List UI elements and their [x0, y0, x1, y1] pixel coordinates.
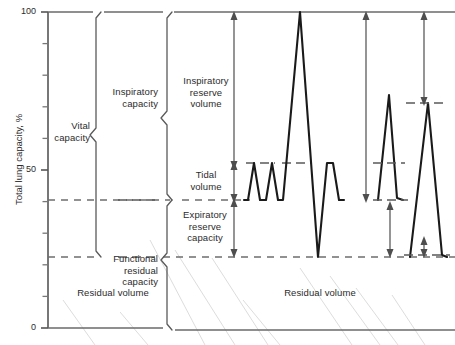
expiratory-reserve-measure-arrow: [387, 201, 394, 258]
vital-capacity-measure-arrow: [421, 11, 428, 106]
guide-lines: [48, 200, 455, 257]
lung-volumes-figure: 100 50 0 Total lung capacity, % Vital ca…: [0, 0, 455, 345]
label-residual-volume-left: Residual volume: [58, 287, 168, 299]
brace-connector-dashes: [118, 200, 160, 257]
inspiratory-capacity-brace: [161, 12, 172, 200]
label-residual-volume-right: Residual volume: [245, 287, 395, 299]
label-vital-capacity: Vital capacity: [48, 120, 90, 143]
label-functional-residual-capacity: Functional residual capacity: [96, 253, 158, 288]
label-inspiratory-reserve-volume: Inspiratory reserve volume: [178, 75, 234, 110]
y-axis: [41, 12, 48, 328]
label-inspiratory-capacity: Inspiratory capacity: [96, 86, 158, 109]
y-tick-0: 0: [8, 322, 36, 332]
second-maneuver-dashes: [373, 103, 450, 255]
spirogram-trace: [244, 12, 447, 257]
label-tidal-volume: Tidal volume: [180, 169, 232, 192]
inspiratory-capacity-measure-arrow: [363, 11, 370, 203]
vital-capacity-brace: [90, 12, 101, 257]
label-expiratory-reserve-capacity: Expiratory reserve capacity: [176, 209, 234, 244]
y-tick-100: 100: [8, 6, 36, 16]
y-axis-label: Total lung capacity, %: [13, 90, 24, 230]
